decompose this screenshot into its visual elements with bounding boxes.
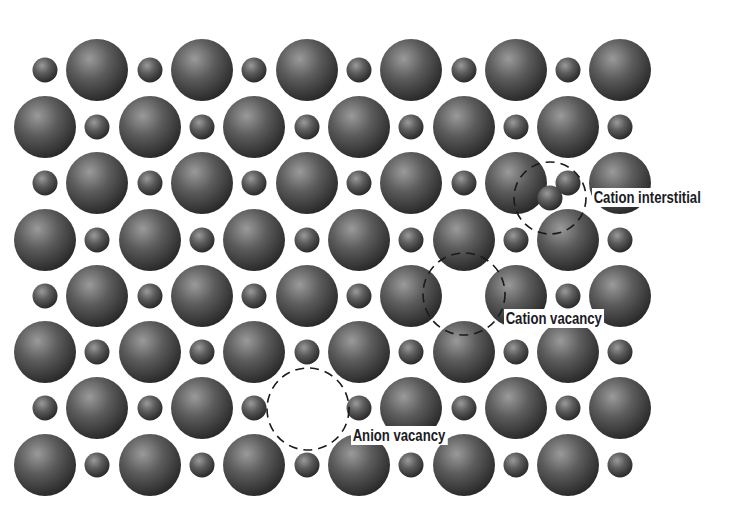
cation-sphere (138, 58, 163, 83)
cation-sphere (399, 228, 424, 253)
anion-sphere (119, 321, 181, 383)
anion-sphere (276, 152, 338, 214)
anion-sphere (328, 96, 390, 158)
anion-sphere (14, 434, 76, 496)
cation-sphere (33, 171, 58, 196)
lattice-spheres (14, 39, 651, 496)
cation-sphere (85, 228, 110, 253)
anion-sphere (171, 39, 233, 101)
cation-sphere (242, 396, 267, 421)
cation-interstitial-sphere (538, 186, 563, 211)
cation-sphere (504, 115, 529, 140)
cation-sphere (242, 284, 267, 309)
cation-sphere (399, 340, 424, 365)
anion-sphere (66, 265, 128, 327)
anion-sphere (485, 39, 547, 101)
anion-sphere (171, 152, 233, 214)
cation-sphere (295, 453, 320, 478)
anion-sphere (223, 434, 285, 496)
anion-sphere (66, 39, 128, 101)
anion-sphere (380, 152, 442, 214)
cation-sphere (85, 115, 110, 140)
anion-sphere (119, 96, 181, 158)
anion-sphere (380, 39, 442, 101)
cation-sphere (138, 284, 163, 309)
anion-sphere (589, 39, 651, 101)
anion-sphere (171, 377, 233, 439)
cation-sphere (33, 396, 58, 421)
cation-sphere (33, 284, 58, 309)
cation-sphere (138, 171, 163, 196)
cation-sphere (452, 171, 477, 196)
anion-sphere (589, 377, 651, 439)
anion-sphere (537, 96, 599, 158)
cation-sphere (452, 58, 477, 83)
cation-sphere (347, 171, 372, 196)
cation-sphere (504, 340, 529, 365)
cation-sphere (85, 340, 110, 365)
cation-sphere (347, 58, 372, 83)
cation-sphere (295, 115, 320, 140)
anion-sphere (433, 209, 495, 271)
anion-sphere (433, 96, 495, 158)
cation-sphere (556, 396, 581, 421)
label-cation-interstitial: Cation interstitial (592, 188, 703, 207)
cation-sphere (399, 115, 424, 140)
cation-sphere (504, 228, 529, 253)
anion-sphere (171, 265, 233, 327)
label-cation-vacancy: Cation vacancy (504, 309, 604, 328)
cation-sphere (452, 396, 477, 421)
cation-sphere (399, 453, 424, 478)
cation-sphere (242, 58, 267, 83)
anion-sphere (223, 321, 285, 383)
cation-sphere (608, 340, 633, 365)
anion-sphere (537, 434, 599, 496)
anion-sphere (328, 321, 390, 383)
label-anion-vacancy: Anion vacancy (351, 426, 448, 445)
anion-sphere (485, 152, 547, 214)
anion-sphere (328, 209, 390, 271)
cation-sphere (190, 340, 215, 365)
anion-sphere (14, 209, 76, 271)
cation-sphere (138, 396, 163, 421)
anion-sphere (14, 321, 76, 383)
cation-sphere (190, 228, 215, 253)
anion-sphere (276, 39, 338, 101)
cation-sphere (242, 171, 267, 196)
anion-sphere (66, 152, 128, 214)
anion-sphere (223, 209, 285, 271)
cation-sphere (190, 115, 215, 140)
cation-sphere (85, 453, 110, 478)
anion-sphere (433, 321, 495, 383)
cation-sphere (608, 453, 633, 478)
anion-sphere (485, 377, 547, 439)
cation-sphere (556, 284, 581, 309)
cation-sphere (608, 228, 633, 253)
anion-sphere (119, 209, 181, 271)
cation-sphere (190, 453, 215, 478)
cation-sphere (347, 396, 372, 421)
anion-sphere (537, 321, 599, 383)
cation-sphere (33, 58, 58, 83)
anion-sphere (14, 96, 76, 158)
cation-sphere (504, 453, 529, 478)
anion-vacancy-circle (267, 368, 349, 450)
anion-sphere (119, 434, 181, 496)
anion-sphere (223, 96, 285, 158)
cation-sphere (608, 115, 633, 140)
anion-sphere (537, 209, 599, 271)
cation-sphere (556, 58, 581, 83)
anion-sphere (276, 265, 338, 327)
cation-sphere (347, 284, 372, 309)
anion-sphere (380, 265, 442, 327)
cation-sphere (295, 340, 320, 365)
cation-sphere (295, 228, 320, 253)
anion-sphere (66, 377, 128, 439)
